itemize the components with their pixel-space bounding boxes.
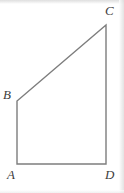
trapezoid-shape [0,0,124,193]
trapezoid-outline [17,25,106,164]
vertex-label-c: C [105,4,114,17]
vertex-label-d: D [105,168,114,181]
vertex-label-a: A [7,168,15,181]
geometry-figure: A B C D [0,0,124,193]
vertex-label-b: B [3,88,11,101]
